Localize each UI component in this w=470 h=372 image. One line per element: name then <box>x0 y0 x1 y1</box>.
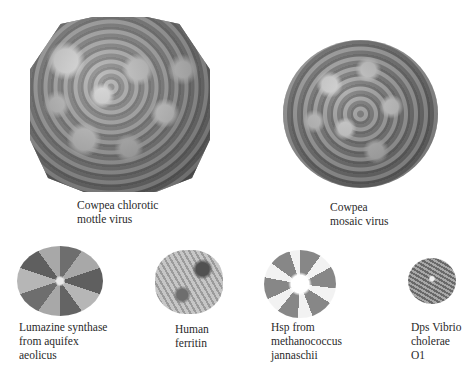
ferritin-caption: Human ferritin <box>175 322 209 350</box>
cpmv-caption: Cowpea mosaic virus <box>330 200 388 228</box>
dps-caption: Dps Vibrio cholerae O1 <box>411 320 462 362</box>
human-ferritin-image <box>155 250 223 314</box>
hsp-caption: Hsp from methanococcus jannaschii <box>271 320 342 362</box>
cowpea-mosaic-virus-image <box>283 40 438 188</box>
hsp-methanococcus-image <box>264 250 336 318</box>
dps-vibrio-cholerae-image <box>408 258 456 304</box>
lumazine-synthase-image <box>17 246 103 316</box>
cowpea-chlorotic-mottle-virus-image <box>30 17 210 192</box>
lumazine-caption: Lumazine synthase from aquifex aeolicus <box>19 320 107 362</box>
ccmv-caption: Cowpea chlorotic mottle virus <box>77 198 158 226</box>
